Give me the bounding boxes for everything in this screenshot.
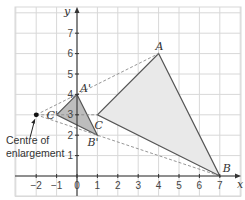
y-tick-label: 2 — [67, 130, 73, 141]
x-tick-label: −1 — [51, 180, 63, 191]
x-tick-label: 6 — [197, 180, 203, 191]
label-a: A — [155, 40, 164, 53]
x-tick-label: 2 — [115, 180, 121, 191]
annotation-arrow-icon — [31, 119, 35, 124]
label-c: C — [94, 119, 103, 132]
y-axis-label: y — [63, 5, 71, 18]
enlargement-diagram: −2−1012345671234567xy ABCA'B'C'Centre of… — [0, 0, 245, 200]
x-axis-label: x — [237, 178, 244, 191]
annotation-line-2: enlargement — [6, 147, 64, 159]
annotation-line-1: Centre of — [6, 134, 49, 146]
x-tick-label: 7 — [217, 180, 223, 191]
label-c-prime: C' — [47, 109, 58, 122]
label-a-prime: A' — [79, 82, 91, 95]
x-tick-label: 0 — [74, 180, 80, 191]
y-tick-label: 6 — [67, 48, 73, 59]
x-tick-label: 4 — [156, 180, 162, 191]
label-b-prime: B' — [86, 136, 98, 149]
x-tick-label: 3 — [135, 180, 141, 191]
y-axis-arrow-icon — [75, 7, 80, 13]
y-tick-label: 1 — [67, 150, 73, 161]
x-tick-label: 5 — [176, 180, 182, 191]
y-tick-label: 5 — [67, 69, 73, 80]
centre-point — [34, 112, 39, 117]
x-tick-label: 1 — [95, 180, 101, 191]
y-tick-label: 4 — [67, 89, 73, 100]
y-tick-label: 3 — [67, 109, 73, 120]
label-b: B — [222, 162, 231, 175]
x-tick-label: −2 — [30, 180, 42, 191]
y-tick-label: 7 — [67, 28, 73, 39]
